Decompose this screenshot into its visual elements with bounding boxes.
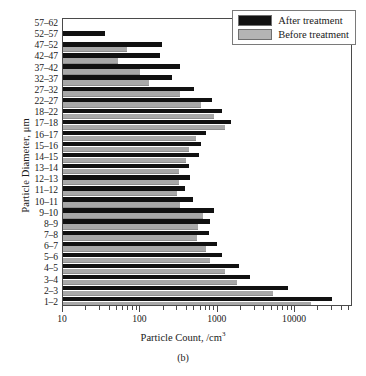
bar-before-treatment [63, 269, 225, 274]
bar-after-treatment [63, 53, 160, 57]
bar-before-treatment [63, 213, 203, 218]
bar-group [63, 175, 351, 186]
x-tick-minor [176, 306, 177, 310]
x-tick-major [294, 306, 295, 312]
legend-swatch-before-icon [238, 29, 272, 40]
x-tick-minor [122, 306, 123, 310]
bar-group [63, 164, 351, 175]
bar-before-treatment [63, 180, 179, 185]
x-tick-minor [277, 306, 278, 310]
bar-before-treatment [63, 280, 237, 285]
bar-before-treatment [63, 235, 197, 240]
y-tick-label: 12–13 [24, 174, 58, 183]
x-axis-label-text: Particle Count, /cm [141, 332, 222, 343]
y-tick-label: 5–6 [24, 252, 58, 261]
bar-before-treatment [63, 202, 180, 207]
y-tick-label: 57–62 [24, 18, 58, 27]
bar-after-treatment [63, 31, 105, 35]
x-tick-minor [136, 306, 137, 310]
bar-group [63, 141, 351, 152]
x-tick-minor [254, 306, 255, 310]
plot-area [62, 18, 352, 306]
x-tick-minor [263, 306, 264, 310]
x-tick-minor [209, 306, 210, 310]
bar-after-treatment [63, 264, 239, 268]
y-tick-label: 42–47 [24, 51, 58, 60]
bar-after-treatment [63, 42, 162, 46]
bar-group [63, 263, 351, 274]
x-tick-minor [291, 306, 292, 310]
bar-before-treatment [63, 58, 118, 63]
x-axis-label-exponent: 3 [222, 330, 226, 338]
y-axis-tick-labels: 57–6252–5747–5242–4737–4232–3727–3222–27… [24, 18, 58, 306]
bar-after-treatment [63, 286, 288, 290]
bar-after-treatment [63, 109, 222, 113]
bar-group [63, 108, 351, 119]
bar-after-treatment [63, 186, 185, 190]
x-tick-minor [287, 306, 288, 310]
bar-group [63, 75, 351, 86]
y-tick-label: 14–15 [24, 152, 58, 161]
x-axis-ticks [62, 306, 352, 313]
y-tick-label: 11–12 [24, 185, 58, 194]
chart-legend: After treatment Before treatment [232, 10, 356, 45]
y-tick-label: 4–5 [24, 263, 58, 272]
bar-group [63, 297, 351, 306]
bar-before-treatment [63, 136, 196, 141]
bar-before-treatment [63, 125, 225, 130]
bar-group [63, 285, 351, 296]
bar-group [63, 153, 351, 164]
bar-after-treatment [63, 98, 212, 102]
bar-before-treatment [63, 158, 186, 163]
bar-before-treatment [63, 69, 140, 74]
x-tick-minor [341, 306, 342, 310]
x-tick-minor [213, 306, 214, 310]
x-tick-minor [116, 306, 117, 310]
bar-after-treatment [63, 120, 231, 124]
x-tick-minor [85, 306, 86, 310]
bar-before-treatment [63, 147, 189, 152]
y-tick-label: 18–22 [24, 107, 58, 116]
x-axis-label: Particle Count, /cm3 [0, 330, 366, 343]
x-tick-major [217, 306, 218, 312]
bar-group [63, 274, 351, 285]
y-tick-label: 8–9 [24, 219, 58, 228]
x-tick-minor [348, 306, 349, 310]
figure-container: Particle Diameter, μm 57–6252–5747–5242–… [0, 0, 366, 376]
y-tick-label: 6–7 [24, 241, 58, 250]
x-tick-minor [109, 306, 110, 310]
y-tick-label: 27–32 [24, 85, 58, 94]
legend-item-after: After treatment [238, 15, 349, 26]
bar-group [63, 119, 351, 130]
y-tick-label: 3–4 [24, 275, 58, 284]
bar-group [63, 197, 351, 208]
y-tick-label: 7–8 [24, 230, 58, 239]
figure-caption: (b) [0, 352, 366, 363]
legend-swatch-after-icon [238, 15, 272, 26]
bar-before-treatment [63, 47, 127, 52]
y-tick-label: 52–57 [24, 29, 58, 38]
bar-before-treatment [63, 258, 210, 263]
legend-label-before: Before treatment [278, 29, 349, 40]
bar-before-treatment [63, 80, 149, 85]
bar-after-treatment [63, 275, 250, 279]
bar-after-treatment [63, 64, 180, 68]
bar-group [63, 241, 351, 252]
legend-label-after: After treatment [278, 15, 342, 26]
x-tick-minor [331, 306, 332, 310]
x-tick-minor [99, 306, 100, 310]
bar-group [63, 230, 351, 241]
bar-group [63, 86, 351, 97]
bar-group [63, 97, 351, 108]
bar-after-treatment [63, 253, 222, 257]
bar-after-treatment [63, 175, 190, 179]
x-tick-major [139, 306, 140, 312]
bar-before-treatment [63, 102, 201, 107]
y-tick-label: 1–2 [24, 297, 58, 306]
x-tick-label: 10 [57, 313, 67, 324]
bar-before-treatment [63, 91, 180, 96]
bar-after-treatment [63, 75, 172, 79]
x-tick-major [62, 306, 63, 312]
bar-before-treatment [63, 169, 179, 174]
bar-group [63, 64, 351, 75]
